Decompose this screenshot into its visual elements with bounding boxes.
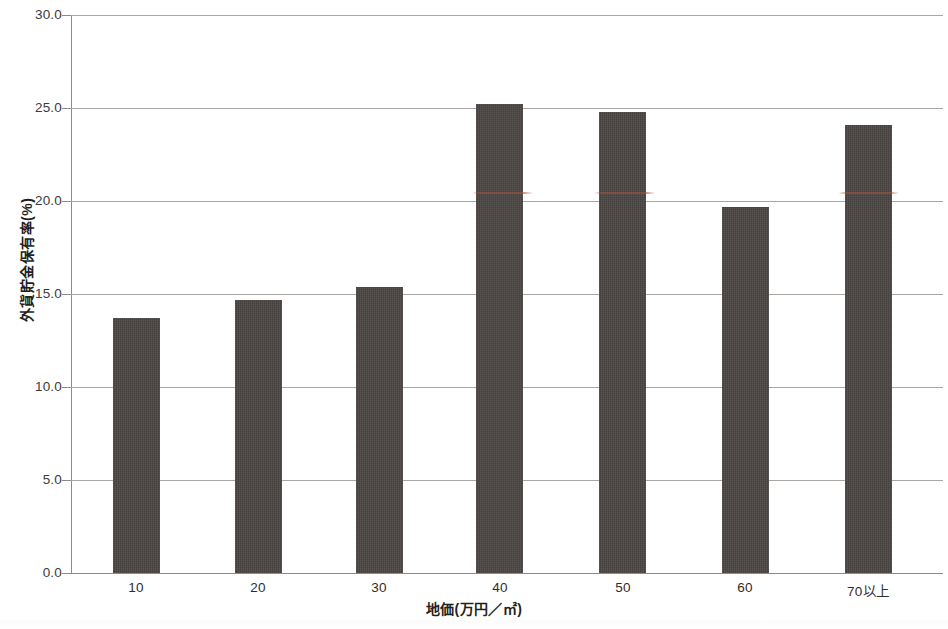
y-tick-label: 20.0: [30, 193, 62, 208]
gridline-30: [71, 15, 943, 16]
x-tick-label-70plus: 70以上: [821, 580, 915, 600]
y-axis-title: 外貨貯金保有率(%): [16, 160, 36, 360]
x-tick-label-10: 10: [89, 580, 183, 595]
bar-70plus: [845, 125, 892, 573]
scan-noise-band: [0, 620, 948, 629]
x-tick-label-40: 40: [453, 580, 547, 595]
y-axis-tick: [62, 387, 71, 388]
y-tick-label: 5.0: [30, 472, 62, 487]
y-axis-tick: [62, 201, 71, 202]
x-axis-title: 地価(万円／㎡): [0, 598, 948, 618]
chart-root: 外貨貯金保有率(%) 30.0 25.0 20.0 15.0 10.0 5.0 …: [0, 0, 948, 629]
x-tick-label-50: 50: [576, 580, 670, 595]
bar-20: [235, 300, 282, 573]
y-axis-tick: [62, 108, 71, 109]
bar-10: [113, 318, 160, 573]
x-axis-baseline: [71, 573, 943, 574]
bar-40: [476, 104, 523, 573]
y-tick-label: 10.0: [30, 379, 62, 394]
x-tick-label-60: 60: [698, 580, 792, 595]
y-tick-label: 25.0: [30, 100, 62, 115]
y-axis-tick: [62, 294, 71, 295]
y-tick-label: 15.0: [30, 286, 62, 301]
y-axis-tick: [62, 480, 71, 481]
y-axis-tick: [62, 15, 71, 16]
x-tick-label-30: 30: [332, 580, 426, 595]
y-axis-tick: [62, 573, 71, 574]
x-tick-label-20: 20: [211, 580, 305, 595]
plot-area: [71, 15, 943, 573]
bar-30: [356, 287, 403, 573]
bar-50: [599, 112, 646, 573]
y-tick-label: 30.0: [30, 7, 62, 22]
y-tick-label: 0.0: [30, 565, 62, 580]
bar-60: [722, 207, 769, 573]
